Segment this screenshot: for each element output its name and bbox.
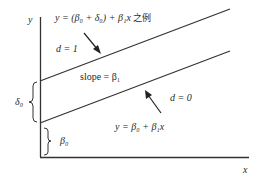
- upper-line-equation-text: y = (β₀ + δ₀) + β₁x: [55, 12, 131, 23]
- lower-regression-line: [40, 51, 230, 123]
- arrow-to-lower-line: [145, 90, 161, 113]
- upper-line-equation-suffix: 之例: [133, 13, 151, 23]
- delta0-label: δ₀: [15, 97, 23, 107]
- delta0-brace: [29, 82, 37, 122]
- slope-label: slope = β₁: [80, 72, 120, 82]
- lower-line-equation: y = β₀ + β₁x: [115, 122, 164, 132]
- y-axis-label: y: [28, 15, 32, 25]
- beta0-label: β₀: [60, 136, 68, 146]
- upper-line-equation: y = (β₀ + δ₀) + β₁x 之例: [55, 13, 151, 23]
- d0-label: d = 0: [170, 93, 192, 103]
- d1-label: d = 1: [56, 44, 78, 54]
- beta0-brace: [44, 128, 51, 155]
- regression-dummy-diagram: [0, 0, 261, 176]
- x-axis-label: x: [243, 165, 247, 175]
- arrow-to-upper-line: [84, 33, 101, 54]
